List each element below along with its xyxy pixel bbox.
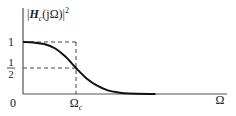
y-axis-label: |Hc(jΩ)|2: [27, 6, 69, 23]
chart: |Hc(jΩ)|21120ΩcΩ: [0, 0, 236, 116]
y-tick-label-denominator: 2: [8, 68, 14, 80]
x-tick-label: 0: [10, 96, 16, 110]
y-tick-label-numerator: 1: [8, 56, 14, 68]
x-tick-label: Ωc: [70, 96, 83, 112]
x-axis-label: Ω: [216, 93, 225, 107]
y-tick-label: 1: [8, 35, 14, 49]
magnitude-curve: [23, 42, 156, 94]
